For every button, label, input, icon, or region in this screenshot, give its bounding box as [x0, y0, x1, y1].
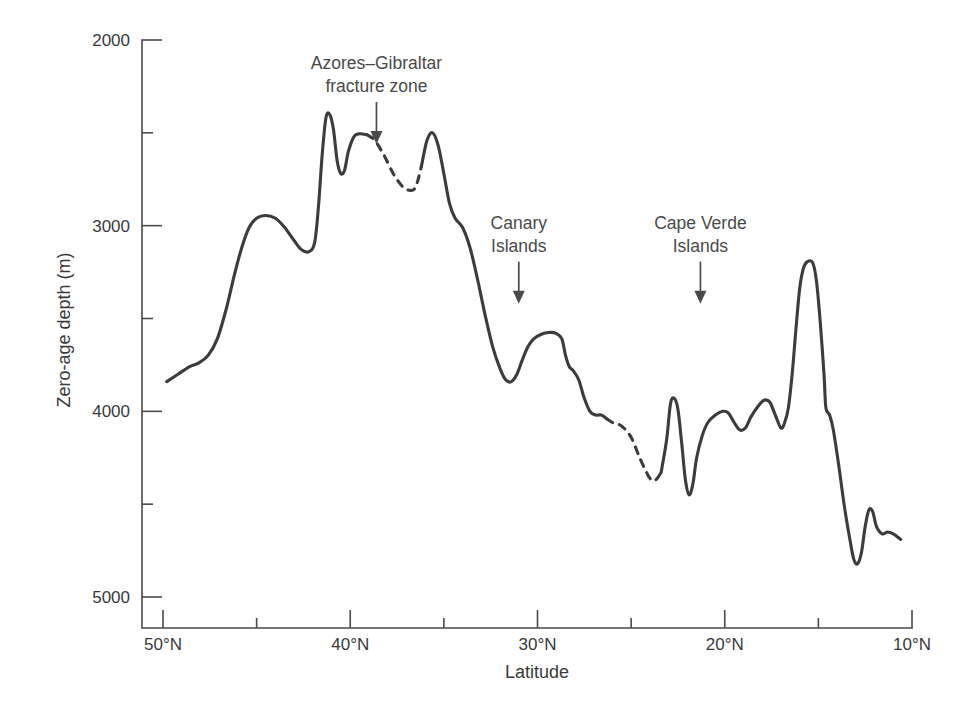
x-axis-ticks — [163, 610, 912, 628]
x-tick-label: 10°N — [893, 635, 931, 654]
annotation-canary-islands: CanaryIslands — [491, 213, 548, 304]
x-axis-title: Latitude — [505, 662, 569, 682]
y-tick-label: 2000 — [92, 31, 130, 50]
annotation-cape-verde-islands: Cape VerdeIslands — [654, 213, 746, 304]
x-tick-label: 30°N — [519, 635, 557, 654]
annotation-arrow-head-icon — [513, 291, 525, 304]
x-tick-label: 50°N — [144, 635, 182, 654]
data-curve-measured-segment — [167, 113, 367, 382]
y-tick-label: 3000 — [92, 217, 130, 236]
annotation-arrow-head-icon — [694, 291, 706, 304]
y-tick-label: 5000 — [92, 588, 130, 607]
chart-figure: 50°N40°N30°N20°N10°N 2000300040005000 La… — [0, 0, 975, 710]
annotations-group: Azores–Gibraltarfracture zoneCanaryIslan… — [311, 53, 747, 304]
annotation-label-line: Canary — [491, 213, 548, 233]
data-series-group — [167, 113, 901, 564]
y-axis-tick-labels: 2000300040005000 — [92, 31, 130, 607]
annotation-label-line: Azores–Gibraltar — [311, 53, 442, 73]
annotation-azores-gibraltar: Azores–Gibraltarfracture zone — [311, 53, 442, 144]
data-curve-measured-segment — [661, 261, 901, 564]
x-tick-label: 20°N — [706, 635, 744, 654]
x-axis-tick-labels: 50°N40°N30°N20°N10°N — [144, 635, 931, 654]
y-axis-title: Zero-age depth (m) — [54, 252, 74, 407]
annotation-label-line: fracture zone — [325, 76, 427, 96]
data-curve-inferred-segment — [367, 135, 421, 191]
y-tick-label: 4000 — [92, 402, 130, 421]
axes-group: 50°N40°N30°N20°N10°N 2000300040005000 — [92, 31, 931, 654]
data-curve-inferred-segment — [607, 419, 661, 481]
annotation-label-line: Cape Verde — [654, 213, 746, 233]
annotation-label-line: Islands — [491, 236, 547, 256]
annotation-label-line: Islands — [673, 236, 729, 256]
y-axis-ticks — [142, 40, 162, 597]
zero-age-depth-line-chart: 50°N40°N30°N20°N10°N 2000300040005000 La… — [0, 0, 975, 710]
data-curve-measured-segment — [421, 133, 606, 419]
x-tick-label: 40°N — [331, 635, 369, 654]
